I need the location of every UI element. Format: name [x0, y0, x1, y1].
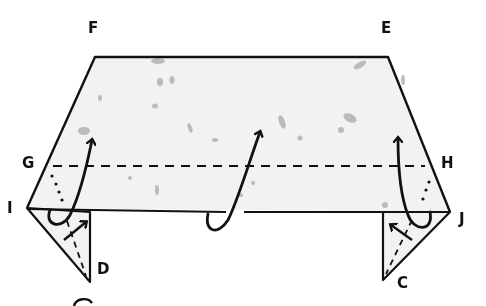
label-j: J: [458, 210, 465, 228]
label-f: F: [88, 19, 98, 37]
left-flap: [27, 208, 90, 282]
label-i: I: [7, 199, 13, 217]
label-e: E: [381, 19, 391, 37]
label-d: D: [97, 260, 109, 278]
label-h: H: [441, 154, 454, 172]
right-flap: [383, 212, 450, 280]
origami-diagram: F E G H I J D C: [0, 0, 486, 306]
partial-circle-mark: [74, 299, 92, 306]
paper-body: [27, 57, 450, 212]
label-g: G: [22, 154, 34, 172]
label-c: C: [397, 274, 408, 292]
